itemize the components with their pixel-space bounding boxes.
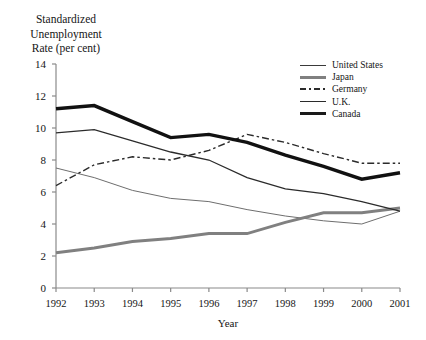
legend-swatch-icon (300, 59, 326, 71)
legend-item: U.K. (300, 96, 424, 108)
x-tick-label: 1993 (74, 298, 114, 309)
y-tick-label: 6 (24, 187, 46, 198)
legend-swatch-icon (300, 96, 326, 108)
legend-label: U.K. (332, 97, 350, 107)
legend-label: Japan (332, 72, 354, 82)
legend-item: United States (300, 59, 424, 71)
legend-label: Canada (332, 109, 361, 119)
x-tick-label: 1995 (151, 298, 191, 309)
legend-swatch-icon (300, 83, 326, 95)
x-tick-label: 1992 (36, 298, 76, 309)
chart-figure: Standardized Unemployment Rate (per cent… (0, 0, 426, 340)
x-tick-label: 1994 (112, 298, 152, 309)
y-tick-label: 4 (24, 219, 46, 230)
x-tick-label: 1998 (265, 298, 305, 309)
legend-item: Germany (300, 83, 424, 95)
x-tick-label: 1997 (227, 298, 267, 309)
chart-legend: United StatesJapanGermanyU.K.Canada (300, 59, 424, 120)
legend-swatch-icon (300, 108, 326, 120)
y-tick-label: 14 (24, 59, 46, 70)
legend-label: Germany (332, 84, 367, 94)
y-tick-label: 2 (24, 251, 46, 262)
x-tick-label: 1999 (304, 298, 344, 309)
legend-swatch-icon (300, 71, 326, 83)
x-tick-label: 2001 (380, 298, 420, 309)
legend-label: United States (332, 60, 383, 70)
legend-item: Canada (300, 108, 424, 120)
plot-area (0, 0, 426, 340)
y-tick-label: 10 (24, 123, 46, 134)
legend-item: Japan (300, 71, 424, 83)
x-tick-label: 2000 (342, 298, 382, 309)
series-line (56, 134, 400, 185)
y-tick-label: 8 (24, 155, 46, 166)
x-tick-label: 1996 (189, 298, 229, 309)
x-axis-title: Year (168, 317, 288, 329)
y-tick-label: 0 (24, 283, 46, 294)
series-line (56, 208, 400, 253)
y-tick-label: 12 (24, 91, 46, 102)
